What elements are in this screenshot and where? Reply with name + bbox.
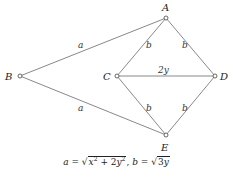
formula: a = √x2 + 2y2, b = √3y [0, 155, 233, 167]
formula-eq1: = [69, 157, 82, 167]
edge-label-E-D: b [182, 103, 188, 113]
formula-exp2: 2 [122, 155, 126, 162]
edge-label-C-E: b [146, 103, 152, 113]
node-label-C: C [103, 71, 111, 82]
formula-eq2: = [138, 157, 151, 167]
edge-label-B-E: a [78, 103, 83, 113]
node-label-E: E [160, 142, 169, 153]
sqrt-2: √3y [151, 157, 170, 167]
edge-C-E [117, 76, 166, 135]
node-D [213, 74, 217, 78]
formula-y2: y [164, 157, 169, 167]
edge-label-C-D: 2y [157, 65, 170, 75]
edge-B-A [20, 18, 166, 76]
node-E [164, 133, 168, 137]
node-label-A: A [161, 2, 169, 13]
node-A [164, 16, 168, 20]
edge-label-C-A: b [146, 40, 152, 50]
edge-label-B-A: a [78, 40, 83, 50]
node-B [18, 74, 22, 78]
edge-B-E [20, 76, 166, 135]
edge-label-A-D: b [182, 40, 188, 50]
edge-A-D [166, 18, 215, 76]
node-C [115, 74, 119, 78]
node-label-B: B [4, 71, 12, 82]
edge-E-D [166, 76, 215, 135]
sqrt-1: √x2 + 2y2 [82, 155, 127, 167]
graph-diagram: a a b b 2y b b A B C D E [0, 0, 233, 177]
formula-plus: + 2 [98, 157, 117, 167]
node-label-D: D [219, 71, 228, 82]
